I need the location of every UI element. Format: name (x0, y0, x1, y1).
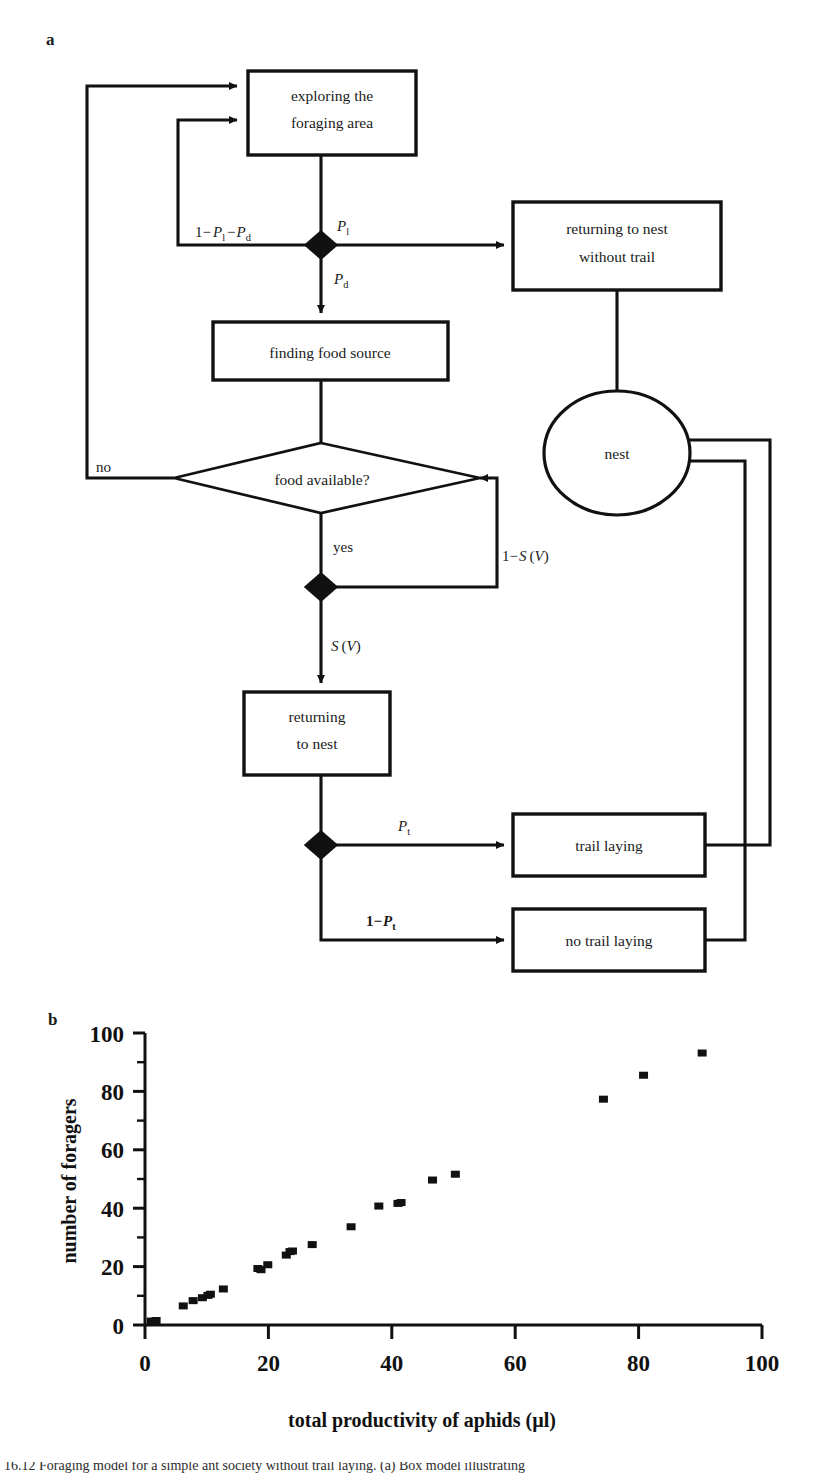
x-axis-title: total productivity of aphids (µl) (288, 1409, 556, 1432)
edge-label-yes: yes (333, 539, 353, 555)
y-axis-title: number of foragers (58, 1098, 81, 1263)
node-returning-without-trail-line2: without trail (579, 248, 655, 265)
scatter-point (219, 1285, 228, 1292)
node-trail-laying-label: trail laying (575, 837, 643, 854)
scatter-point (288, 1248, 297, 1255)
junction-diamond-survival (305, 573, 337, 601)
x-tick-label-80: 80 (627, 1351, 650, 1376)
edge-label-pl: Pl (336, 218, 349, 237)
scatter-point (152, 1317, 161, 1324)
y-tick-label-60: 60 (101, 1138, 124, 1163)
x-axis-major-ticks (145, 1325, 762, 1339)
scatter-point (189, 1297, 198, 1304)
node-food-available-label: food available? (274, 471, 369, 488)
y-tick-label-20: 20 (101, 1255, 124, 1280)
node-exploring-the-foraging-area: exploring the foraging area (248, 71, 416, 155)
scatter-point (639, 1072, 648, 1079)
scatter-point (308, 1241, 317, 1248)
scatter-point (428, 1177, 437, 1184)
node-food-available-decision: food available? (174, 443, 480, 513)
edge-label-1-minus-s-v: 1−S(V) (502, 548, 549, 565)
y-tick-label-100: 100 (90, 1022, 125, 1047)
scatter-point (347, 1223, 356, 1230)
node-returning-without-trail-line1: returning to nest (566, 220, 668, 237)
scatter-point (451, 1171, 460, 1178)
edge-label-1-minus-pt: 1−Pt (366, 913, 396, 932)
edge-label-1-minus-pl-minus-pd: 1−Pl−Pd (195, 224, 252, 243)
node-returning-to-nest: returning to nest (244, 692, 390, 775)
scatter-point (206, 1291, 215, 1298)
edge-label-pd: Pd (333, 271, 349, 290)
scatter-point (179, 1302, 188, 1309)
x-tick-label-0: 0 (139, 1351, 151, 1376)
x-tick-label-100: 100 (745, 1351, 780, 1376)
x-tick-label-40: 40 (380, 1351, 403, 1376)
node-trail-laying: trail laying (513, 814, 705, 876)
scatter-point (698, 1050, 707, 1057)
node-returning-to-nest-line1: returning (289, 708, 346, 725)
node-no-trail-laying: no trail laying (513, 909, 705, 971)
node-returning-to-nest-without-trail: returning to nest without trail (513, 202, 721, 290)
edge-label-no: no (96, 459, 111, 475)
node-exploring-line1: exploring the (291, 87, 373, 104)
scatter-point (263, 1261, 272, 1268)
node-nest-label: nest (605, 445, 631, 462)
y-tick-label-40: 40 (101, 1197, 124, 1222)
node-no-trail-laying-label: no trail laying (566, 932, 653, 949)
figure-caption-strip: 16.12 Foraging model for a simple ant so… (0, 1462, 819, 1473)
x-tick-label-60: 60 (504, 1351, 527, 1376)
node-returning-to-nest-line2: to nest (297, 735, 339, 752)
foragers-vs-productivity-scatter: 100 80 60 40 20 0 0 20 40 60 80 100 tota… (0, 995, 819, 1465)
node-finding-food-source: finding food source (213, 322, 448, 380)
scatter-data-points (147, 1050, 707, 1325)
scatter-point (397, 1199, 406, 1206)
scatter-point (374, 1203, 383, 1210)
edge-label-s-v: S(V) (331, 638, 361, 655)
node-nest: nest (544, 391, 690, 515)
x-tick-label-20: 20 (257, 1351, 280, 1376)
figure-caption: 16.12 Foraging model for a simple ant so… (4, 1462, 525, 1473)
node-exploring-line2: foraging area (291, 114, 373, 131)
scatter-point (599, 1096, 608, 1103)
junction-diamond-explore (305, 231, 337, 259)
figure-page: a (0, 0, 819, 1473)
y-tick-label-80: 80 (101, 1080, 124, 1105)
y-tick-label-0: 0 (113, 1314, 125, 1339)
foraging-model-flowchart: exploring the foraging area returning to… (0, 0, 819, 995)
edge-label-pt: Pt (397, 818, 410, 837)
node-finding-food-source-label: finding food source (269, 344, 391, 361)
junction-diamond-trail (305, 831, 337, 859)
